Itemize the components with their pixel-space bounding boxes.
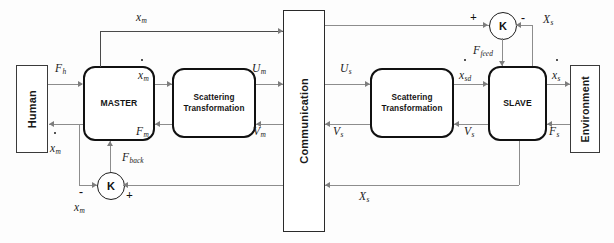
block-environment-label: Environment [579,76,591,142]
arrow-slave-to-environment [565,81,570,87]
wire-communication-to-scattering-slave [325,84,370,85]
arrow-communication-to-k-slave [483,22,488,28]
block-human: Human [16,65,48,153]
arrow-human-to-master [78,81,83,87]
dot-xdot-s [556,59,558,61]
sign-master-minus: - [79,186,83,198]
arrow-k-slave-to-slave [499,61,505,66]
label-xdot-m-human: xm [50,143,60,155]
label-xdot-m-master-out: xm [138,70,148,82]
summing-junction-slave: K [489,12,517,40]
label-f-back: Fback [122,152,143,164]
arrow-xs-bottom-to-communication [325,182,330,188]
wire-communication-to-k-slave [325,25,489,26]
arrow-master-to-scattering [167,81,172,87]
block-master-label: MASTER [101,98,138,110]
block-scattering-transformation-slave: Scattering Transformation [370,68,454,138]
label-v-s-right: Vs [464,126,474,138]
wire-master-to-human [49,124,83,125]
summing-junction-slave-label: K [499,20,507,32]
label-f-m: Fm [136,126,148,138]
label-x-s-bottom: Xs [359,191,369,203]
arrow-xm-top-to-communication [278,28,283,34]
sign-master-plus: + [126,189,133,201]
wire-xs-to-k-slave-vertical [532,25,533,66]
arrow-slave-to-scattering-slave [454,121,459,127]
sign-slave-plus: + [470,11,477,23]
arrow-scattering-to-communication [278,81,283,87]
block-human-label: Human [26,90,38,128]
label-x-s-top: Xs [543,14,553,26]
arrow-scattering-slave-to-communication [325,121,330,127]
wire-xm-top-horizontal [100,31,283,32]
dot-xdot-m-human [54,132,56,134]
label-f-h: Fh [55,63,66,75]
label-v-s-left: Vs [333,126,343,138]
arrow-communication-to-scattering-slave [365,81,370,87]
label-v-m: Vm [253,126,265,138]
label-xdot-s: xs [552,70,560,82]
block-slave-label: SLAVE [503,98,532,110]
block-communication-label: Communication [298,78,310,164]
label-x-m-top: xm [136,12,146,24]
arrow-k-master-to-master [107,141,113,146]
arrow-scattering-slave-to-slave [483,81,488,87]
dot-xdot-m-master-out [141,59,143,61]
wire-human-to-master [48,84,82,85]
sign-slave-minus: - [521,12,525,24]
label-x-m-feedback: xm [74,202,84,214]
arrow-xm-feedback-to-k [92,182,97,188]
wire-xm-feedback-vertical [79,124,80,185]
label-f-s: Fs [549,126,559,138]
wire-xs-bottom-to-communication [325,185,519,186]
summing-junction-master: K [97,172,125,200]
dot-xdot-sd [464,59,466,61]
scattering-slave-line1: Scattering [391,92,432,103]
label-u-m: Um [252,63,266,75]
scattering-master-line2: Transformation [184,103,245,114]
arrow-xs-to-k-master [123,182,128,188]
arrow-master-to-human [49,121,54,127]
wire-slave-bottom-vertical [519,141,520,185]
wire-xs-bottom-to-k-master [123,185,283,186]
scattering-master-line1: Scattering [193,92,234,103]
label-u-s: Us [340,63,351,75]
summing-junction-master-label: K [107,180,115,192]
wire-scattering-slave-to-communication [325,124,370,125]
scattering-slave-line2: Transformation [382,103,443,114]
block-communication: Communication [283,10,325,232]
block-slave: SLAVE [488,66,547,141]
block-environment: Environment [570,65,600,153]
label-f-feed: Ffeed [473,45,492,57]
label-xdot-sd: xsd [459,70,471,82]
wire-xm-top-vertical [100,31,101,67]
block-diagram-canvas: Human MASTER Scattering Transformation C… [0,0,614,243]
block-scattering-transformation-master: Scattering Transformation [172,68,256,138]
arrow-scattering-to-master [155,121,160,127]
